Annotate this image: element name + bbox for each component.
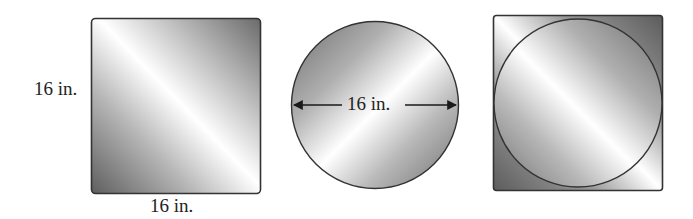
- square-side-label: 16 in.: [34, 78, 77, 100]
- square-figure: [92, 19, 261, 194]
- square-bottom-label: 16 in.: [150, 195, 193, 217]
- circle-diameter-label: 16 in.: [347, 93, 390, 115]
- circle-in-square-figure: [494, 16, 663, 191]
